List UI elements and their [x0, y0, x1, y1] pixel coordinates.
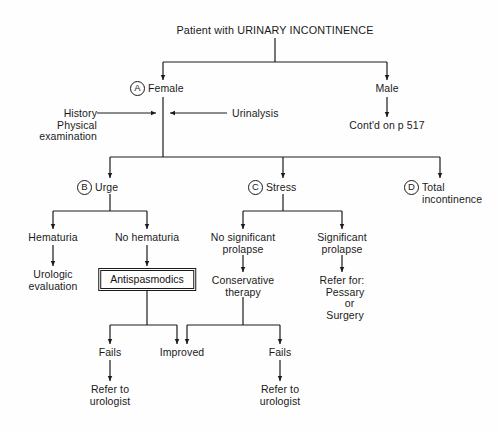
total-incontinence-node-label: Total incontinence [422, 182, 482, 205]
branch-tag-d: D [404, 180, 419, 195]
refer-urologist-right-node-label: Refer to urologist [260, 384, 301, 407]
hematuria-node-label: Hematuria [28, 232, 77, 244]
flowchart-connectors [0, 0, 499, 432]
improved-node-label: Improved [160, 347, 205, 359]
urinary-incontinence-flowchart: Patient with URINARY INCONTINENCE A Fema… [0, 0, 499, 432]
antispasmodics-box: Antispasmodics [98, 268, 196, 291]
urinalysis-node-label: Urinalysis [232, 108, 279, 120]
refer-urologist-left-node-label: Refer to urologist [90, 384, 131, 407]
fails-right-node-label: Fails [269, 347, 292, 359]
significant-prolapse-node-label: Significant prolapse [317, 232, 367, 255]
male-node-label: Male [375, 83, 398, 95]
urologic-evaluation-node-label: Urologic evaluation [29, 269, 78, 292]
refer-for-node-label: Refer for: Pessary or Surgery [320, 275, 365, 321]
contd-node-label: Cont'd on p 517 [349, 120, 424, 132]
branch-tag-b: B [77, 180, 92, 195]
fails-left-node-label: Fails [99, 347, 122, 359]
conservative-therapy-node-label: Conservative therapy [212, 275, 274, 298]
no-significant-prolapse-node-label: No significant prolapse [211, 232, 275, 255]
history-physical-node-label: History Physical examination [33, 108, 97, 143]
antispasmodics-label: Antispasmodics [100, 270, 194, 289]
female-node-label: Female [148, 83, 184, 95]
root-node-label: Patient with URINARY INCONTINENCE [176, 25, 373, 37]
branch-tag-c: C [248, 180, 263, 195]
branch-tag-a: A [130, 81, 145, 96]
stress-node-label: Stress [266, 182, 296, 194]
urge-node-label: Urge [95, 182, 118, 194]
no-hematuria-node-label: No hematuria [115, 232, 179, 244]
